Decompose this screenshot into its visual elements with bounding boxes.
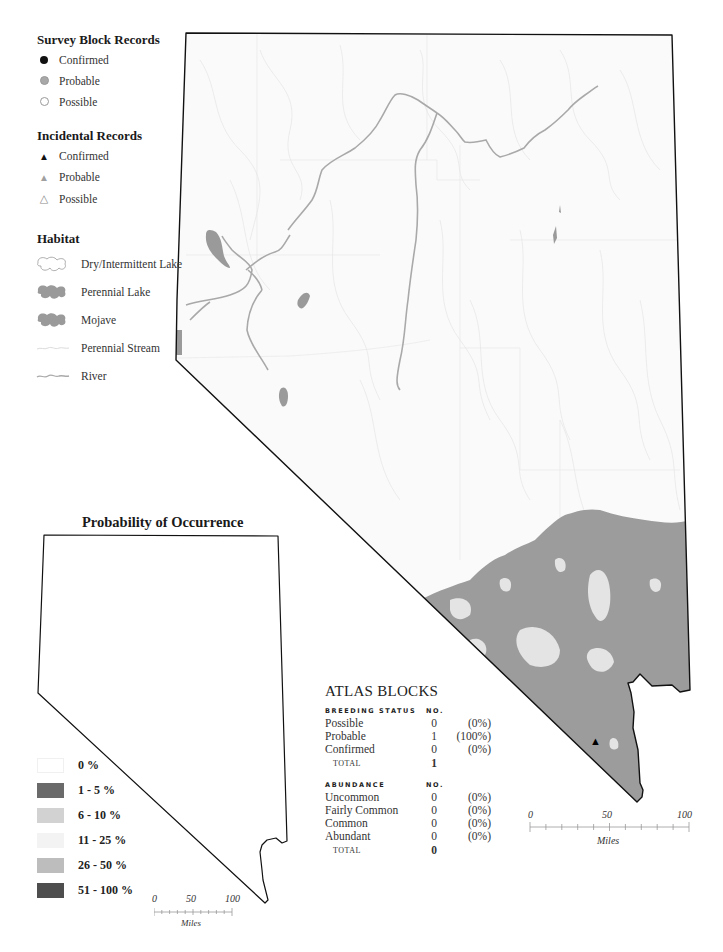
atlas-blocks-table: ATLAS BLOCKS BREEDING STATUS NO. Possibl… xyxy=(325,683,525,883)
abundance-row-abundant: Abundant 0 (0%) xyxy=(325,830,525,843)
abundance-row-total: TOTAL 0 xyxy=(325,844,525,857)
swatch-6-10-percent xyxy=(37,808,64,823)
inset-scale-tick-50: 50 xyxy=(186,893,196,904)
main-scale-tick-50: 50 xyxy=(602,809,612,820)
inset-scale-ruler xyxy=(154,907,234,917)
inset-scale-unit: Miles xyxy=(181,918,201,928)
abundance-no-header: NO. xyxy=(426,781,444,789)
breeding-no-header: NO. xyxy=(426,707,444,715)
main-scale-tick-0: 0 xyxy=(528,809,533,820)
probability-class-1: 1 - 5 % xyxy=(37,783,133,798)
abundance-row-uncommon: Uncommon 0 (0%) xyxy=(325,791,525,804)
probability-class-5: 51 - 100 % xyxy=(37,883,133,898)
inset-scale-bar: 0 50 100 Miles xyxy=(148,893,248,933)
probability-class-3: 11 - 25 % xyxy=(37,833,133,848)
abundance-row-fairly-common: Fairly Common 0 (0%) xyxy=(325,804,525,817)
swatch-51-100-percent xyxy=(37,883,64,898)
probability-class-4: 26 - 50 % xyxy=(37,858,133,873)
probability-class-2: 6 - 10 % xyxy=(37,808,133,823)
breeding-status-header: BREEDING STATUS xyxy=(325,707,416,715)
abundance-header: ABUNDANCE xyxy=(325,781,385,789)
atlas-blocks-title: ATLAS BLOCKS xyxy=(325,683,438,700)
swatch-26-50-percent xyxy=(37,858,64,873)
main-scale-tick-100: 100 xyxy=(677,809,692,820)
inset-scale-tick-0: 0 xyxy=(152,893,157,904)
swatch-0-percent xyxy=(37,758,64,773)
breeding-row-confirmed: Confirmed 0 (0%) xyxy=(325,743,525,756)
main-scale-ruler xyxy=(529,821,691,833)
main-scale-unit: Miles xyxy=(597,835,619,846)
inset-scale-tick-100: 100 xyxy=(225,893,240,904)
swatch-11-25-percent xyxy=(37,833,64,848)
probability-legend: 0 % 1 - 5 % 6 - 10 % 11 - 25 % 26 - 50 %… xyxy=(37,758,133,898)
probability-class-0: 0 % xyxy=(37,758,133,773)
swatch-1-5-percent xyxy=(37,783,64,798)
breeding-row-total: TOTAL 1 xyxy=(325,757,525,770)
breeding-row-possible: Possible 0 (0%) xyxy=(325,717,525,730)
abundance-row-common: Common 0 (0%) xyxy=(325,817,525,830)
breeding-row-probable: Probable 1 (100%) xyxy=(325,730,525,743)
main-scale-bar: 0 50 100 Miles xyxy=(526,809,696,849)
